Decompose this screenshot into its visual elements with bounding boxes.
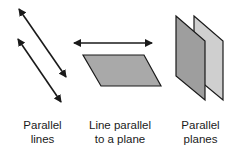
parallel-line-2 — [18, 39, 61, 102]
parallel-planes-figure — [176, 16, 223, 100]
parallel-line-1 — [19, 9, 66, 77]
label-line: to a plane — [80, 132, 160, 146]
parallel-lines-figure — [18, 9, 66, 102]
label-parallel-lines: Parallel lines — [10, 118, 75, 146]
line-parallel-plane-figure — [74, 43, 161, 86]
plane-parallelogram — [83, 55, 161, 86]
label-parallel-planes: Parallel planes — [168, 118, 233, 146]
label-line: lines — [10, 132, 75, 146]
label-line: planes — [168, 132, 233, 146]
label-line-parallel-plane: Line parallel to a plane — [80, 118, 160, 146]
label-line: Parallel — [10, 118, 75, 132]
label-line: Line parallel — [80, 118, 160, 132]
label-line: Parallel — [168, 118, 233, 132]
